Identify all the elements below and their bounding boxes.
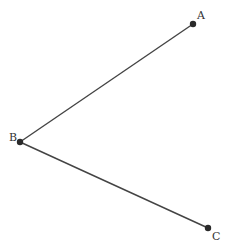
point-c: [205, 225, 211, 231]
segment-ba: [20, 24, 193, 142]
angle-diagram: A B C: [0, 0, 234, 251]
point-a: [190, 21, 196, 27]
segment-bc: [20, 142, 208, 228]
label-c: C: [212, 230, 220, 243]
label-b: B: [9, 131, 17, 144]
point-b: [17, 139, 23, 145]
label-a: A: [196, 9, 206, 22]
